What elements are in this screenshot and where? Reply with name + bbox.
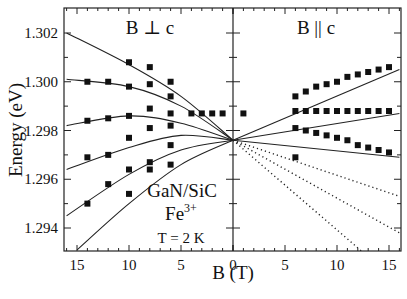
y-tick-label: 1.296	[24, 171, 58, 187]
data-marker	[324, 81, 330, 87]
data-marker	[147, 64, 153, 70]
data-marker	[355, 142, 361, 148]
x-axis-label: B (T)	[212, 262, 254, 284]
data-marker	[313, 108, 319, 114]
data-marker	[147, 159, 153, 165]
annotation-ion: Fe3+	[165, 201, 197, 224]
data-marker	[168, 110, 174, 116]
data-marker	[334, 79, 340, 85]
data-marker	[147, 125, 153, 131]
panel-label-parallel: B || c	[297, 17, 335, 38]
data-marker	[168, 162, 174, 168]
data-marker	[303, 108, 309, 114]
data-marker	[386, 149, 392, 155]
data-marker	[126, 113, 132, 119]
data-marker	[126, 135, 132, 141]
x-tick-label-right: 5	[281, 257, 289, 273]
data-marker	[168, 123, 174, 129]
data-marker	[344, 74, 350, 80]
data-marker	[313, 130, 319, 136]
data-marker	[344, 137, 350, 143]
annotation-ion-symbol: Fe	[165, 203, 184, 224]
data-marker	[386, 108, 392, 114]
data-marker	[292, 154, 298, 160]
data-marker	[147, 167, 153, 173]
data-marker	[147, 81, 153, 87]
y-tick-label: 1.302	[24, 25, 58, 41]
data-marker	[126, 167, 132, 173]
plot-canvas: 151050510151.2941.2961.2981.3001.302 B ⊥…	[0, 0, 407, 299]
data-marker	[365, 108, 371, 114]
data-marker	[220, 110, 226, 116]
data-marker	[199, 110, 205, 116]
data-marker	[355, 108, 361, 114]
data-marker	[209, 110, 215, 116]
energy-vs-field-chart: 151050510151.2941.2961.2981.3001.302 B ⊥…	[0, 0, 407, 299]
data-marker	[324, 108, 330, 114]
data-marker	[105, 181, 111, 187]
data-marker	[126, 191, 132, 197]
y-tick-label: 1.294	[24, 220, 58, 236]
panel-label-perpendicular: B ⊥ c	[126, 17, 174, 38]
data-marker	[365, 69, 371, 75]
data-marker	[292, 93, 298, 99]
annotation-sample: GaN/SiC	[147, 180, 217, 201]
data-marker	[84, 201, 90, 207]
data-marker	[334, 108, 340, 114]
data-marker	[105, 115, 111, 121]
data-marker	[105, 152, 111, 158]
y-axis-label: Energy (eV)	[5, 83, 27, 177]
data-marker	[240, 110, 246, 116]
fit-line	[233, 70, 399, 141]
x-tick-label-left: 10	[122, 257, 137, 273]
data-marker	[344, 108, 350, 114]
dotted-fit-line	[233, 140, 399, 233]
data-marker	[334, 135, 340, 141]
data-marker	[376, 67, 382, 73]
data-marker	[365, 145, 371, 151]
data-marker	[303, 89, 309, 95]
data-marker	[324, 132, 330, 138]
data-marker	[147, 106, 153, 112]
y-tick-label: 1.300	[24, 74, 58, 90]
x-tick-label-right: 10	[330, 257, 345, 273]
x-tick-label-right: 15	[382, 257, 397, 273]
data-marker	[168, 142, 174, 148]
data-marker	[303, 128, 309, 134]
data-marker	[355, 71, 361, 77]
data-marker	[313, 84, 319, 90]
data-marker	[188, 110, 194, 116]
data-marker	[84, 79, 90, 85]
data-marker	[386, 64, 392, 70]
data-marker	[105, 79, 111, 85]
annotation-temperature: T = 2 K	[158, 230, 205, 246]
data-marker	[292, 108, 298, 114]
y-tick-label: 1.298	[24, 123, 58, 139]
x-tick-label-left: 5	[177, 257, 185, 273]
annotation-ion-charge: 3+	[184, 201, 197, 215]
x-tick-label-left: 15	[70, 257, 85, 273]
data-marker	[84, 118, 90, 124]
data-marker	[168, 93, 174, 99]
fit-line	[233, 113, 399, 140]
data-marker	[126, 84, 132, 90]
data-marker	[84, 154, 90, 160]
data-marker	[376, 147, 382, 153]
data-marker	[168, 79, 174, 85]
data-marker	[126, 59, 132, 65]
data-marker	[376, 108, 382, 114]
data-marker	[292, 125, 298, 131]
